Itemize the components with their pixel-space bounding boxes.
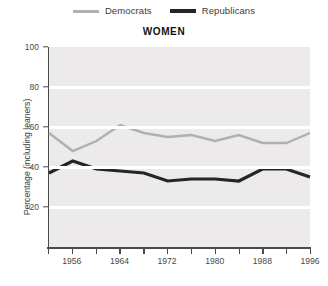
y-axis-tick-label: 60 xyxy=(30,122,39,132)
x-axis-tick-mark xyxy=(96,248,97,254)
chart-legend: Democrats Republicans xyxy=(0,3,328,19)
x-axis-tick-mark xyxy=(215,248,216,254)
y-axis-ticks: 10080604020 xyxy=(0,0,48,286)
legend-swatch-republicans-icon xyxy=(170,9,196,13)
x-axis-tick-label: 1980 xyxy=(205,256,224,266)
chart-figure: Democrats Republicans WOMEN Percentage (… xyxy=(0,0,328,286)
gridline xyxy=(49,206,310,209)
x-axis-tick-mark xyxy=(286,248,287,254)
legend-label-democrats: Democrats xyxy=(105,6,152,16)
plot-area xyxy=(48,47,310,247)
y-axis-tick-label: 100 xyxy=(25,42,39,52)
legend-item-republicans: Republicans xyxy=(170,6,255,16)
gridline xyxy=(49,126,310,129)
x-axis-tick-mark xyxy=(48,248,49,254)
gridline xyxy=(49,166,310,169)
series-line-republicans xyxy=(49,161,310,181)
x-axis-tick-mark xyxy=(167,248,168,254)
y-axis-tick-label: 20 xyxy=(30,202,39,212)
y-axis-tick-label: 80 xyxy=(30,82,39,92)
x-axis-tick-label: 1996 xyxy=(300,256,319,266)
legend-label-republicans: Republicans xyxy=(202,6,255,16)
x-axis-tick-mark xyxy=(119,248,120,254)
legend-swatch-democrats-icon xyxy=(73,10,99,13)
x-axis-tick-mark xyxy=(262,248,263,254)
x-axis-tick-mark xyxy=(239,248,240,254)
x-axis-tick-label: 1988 xyxy=(253,256,272,266)
x-axis-line xyxy=(47,247,311,249)
x-axis-tick-label: 1972 xyxy=(158,256,177,266)
series-lines xyxy=(49,47,310,247)
gridline xyxy=(49,86,310,89)
x-axis-tick-mark xyxy=(72,248,73,254)
chart-title: WOMEN xyxy=(0,26,328,37)
y-axis-tick-label: 40 xyxy=(30,162,39,172)
x-axis-tick-mark xyxy=(143,248,144,254)
x-axis-tick-mark xyxy=(191,248,192,254)
x-axis-tick-label: 1956 xyxy=(62,256,81,266)
x-axis-tick-label: 1964 xyxy=(110,256,129,266)
x-axis-tick-mark xyxy=(310,248,311,254)
series-line-democrats xyxy=(49,125,310,151)
legend-item-democrats: Democrats xyxy=(73,6,152,16)
